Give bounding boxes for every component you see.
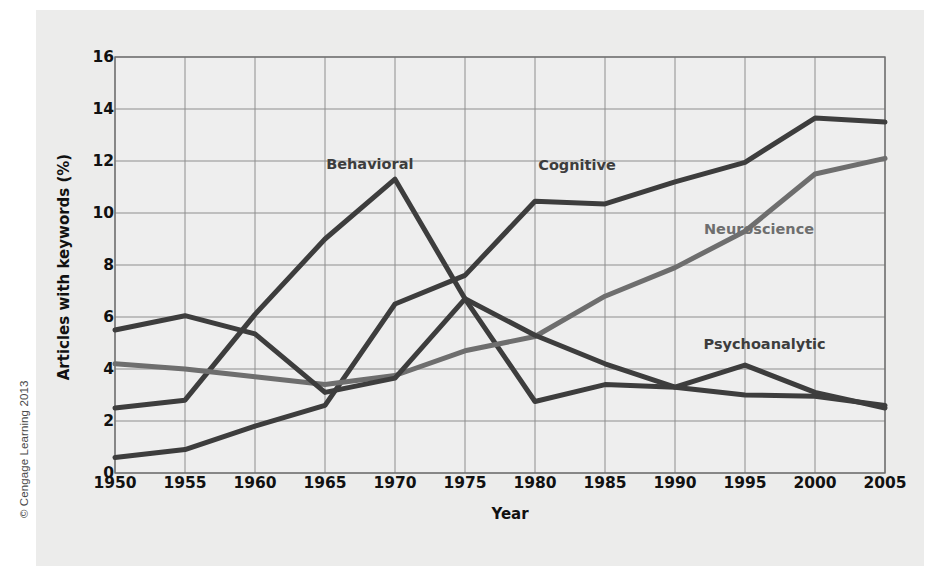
figure-container: © Cengage Learning 2013 Articles with ke… — [0, 0, 932, 582]
line-chart-plot — [0, 0, 932, 582]
series-label-psychoanalytic: Psychoanalytic — [704, 336, 826, 352]
series-label-neuroscience: Neuroscience — [704, 221, 814, 237]
series-label-cognitive: Cognitive — [538, 157, 615, 173]
series-label-behavioral: Behavioral — [326, 156, 413, 172]
